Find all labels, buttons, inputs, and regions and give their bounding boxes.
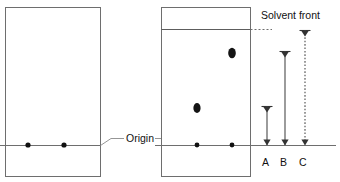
undeveloped-plate-outline: [6, 8, 101, 177]
chromatography-diagram: Origin Solvent front: [0, 0, 340, 182]
measurement-arrow-c: [300, 31, 311, 146]
undeveloped-origin-dot-2: [61, 142, 66, 147]
developed-plate-outline: [162, 8, 251, 177]
measurement-arrow-b: [280, 52, 291, 146]
measure-c-arrowhead-top: [301, 31, 308, 37]
measurement-arrow-a: [262, 107, 273, 146]
measure-a-arrowhead-top: [263, 107, 270, 113]
measure-b-arrowhead-top: [281, 52, 288, 58]
developed-origin-dot-1: [195, 143, 200, 148]
measure-c-arrowhead-bottom: [301, 140, 308, 146]
undeveloped-origin-dot-1: [25, 142, 30, 147]
measure-c-label: C: [299, 156, 307, 168]
developed-origin-dot-2: [230, 143, 235, 148]
measure-b-arrowhead-bottom: [281, 140, 288, 146]
undeveloped-plate: [0, 8, 101, 177]
measure-b-label: B: [280, 156, 287, 168]
origin-label: Origin: [126, 132, 154, 144]
solvent-front-label: Solvent front: [261, 9, 320, 21]
figure-canvas: Origin Solvent front: [0, 0, 340, 182]
measurement-labels: A B C: [262, 156, 307, 168]
migrated-spot-1: [193, 103, 200, 113]
measure-a-arrowhead-bottom: [263, 140, 270, 146]
migrated-spot-2: [228, 48, 236, 58]
measure-a-label: A: [262, 156, 269, 168]
origin-leader-left: [101, 139, 125, 146]
developed-plate: [155, 8, 272, 177]
